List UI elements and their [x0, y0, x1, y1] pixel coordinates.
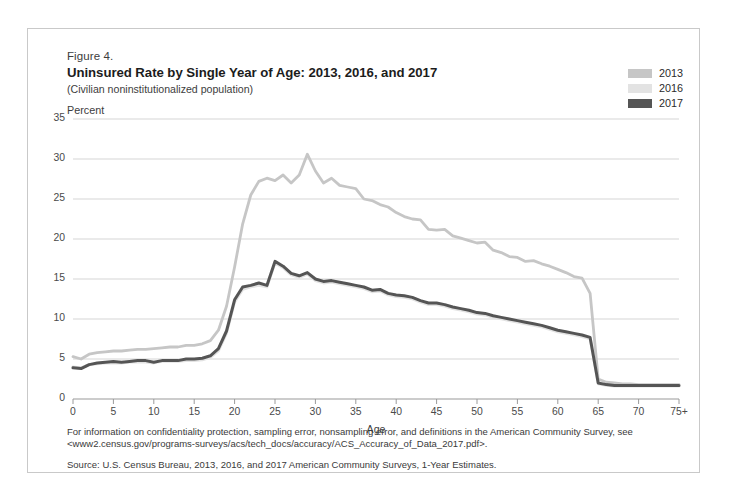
- y-tick-label: 10: [43, 312, 65, 323]
- series-line-2013: [73, 154, 679, 384]
- x-tick-label: 50: [462, 406, 492, 417]
- footnote-confidentiality: For information on confidentiality prote…: [67, 426, 667, 451]
- series-line-2016: [73, 263, 679, 386]
- x-tick-label: 30: [300, 406, 330, 417]
- x-tick-label: 65: [583, 406, 613, 417]
- footnote-source: Source: U.S. Census Bureau, 2013, 2016, …: [67, 459, 667, 471]
- y-tick-label: 35: [43, 112, 65, 123]
- figure-footer: For information on confidentiality prote…: [67, 426, 667, 471]
- x-tick-label: 35: [341, 406, 371, 417]
- x-tick-label: 60: [543, 406, 573, 417]
- x-tick-label: 5: [98, 406, 128, 417]
- y-tick-label: 20: [43, 232, 65, 243]
- figure-frame: Figure 4. Uninsured Rate by Single Year …: [27, 28, 700, 473]
- x-tick-label: 40: [381, 406, 411, 417]
- x-tick-label: 10: [139, 406, 169, 417]
- x-tick-label: 75+: [664, 406, 694, 417]
- plot-area: 0510152025303505101520253035404550556065…: [28, 29, 701, 474]
- x-tick-label: 55: [502, 406, 532, 417]
- y-tick-label: 30: [43, 152, 65, 163]
- y-tick-label: 5: [43, 352, 65, 363]
- y-tick-label: 25: [43, 192, 65, 203]
- y-tick-label: 0: [43, 392, 65, 403]
- y-tick-label: 15: [43, 272, 65, 283]
- x-tick-label: 25: [260, 406, 290, 417]
- x-tick-label: 20: [220, 406, 250, 417]
- x-tick-label: 45: [422, 406, 452, 417]
- x-tick-label: 70: [624, 406, 654, 417]
- series-line-2017: [73, 261, 679, 385]
- x-tick-label: 0: [58, 406, 88, 417]
- x-tick-label: 15: [179, 406, 209, 417]
